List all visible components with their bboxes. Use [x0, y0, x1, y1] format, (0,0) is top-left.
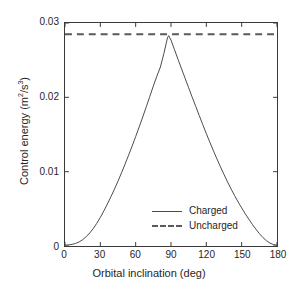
y-tick-label: 0.02: [40, 92, 59, 102]
x-tick-label: 90: [165, 250, 176, 260]
legend-solid-line-icon: [150, 206, 184, 216]
y-axis-label-prefix: Control energy (m: [18, 97, 30, 185]
y-axis-label-sup-time: 3: [17, 81, 24, 85]
x-axis-label: Orbital inclination (deg): [0, 267, 298, 279]
x-tick-label: 30: [94, 250, 105, 260]
x-tick-label: 150: [234, 250, 251, 260]
legend-dashed-line-icon: [150, 221, 184, 231]
x-tick-label: 0: [61, 250, 67, 260]
chart-legend: Charged Uncharged: [150, 203, 262, 233]
y-tick-label: 0.03: [40, 17, 59, 27]
y-axis-label-suffix: ): [18, 77, 30, 81]
chart-figure: 00.010.020.03 0306090120150180 Orbital i…: [0, 0, 298, 296]
legend-item-uncharged: Uncharged: [150, 218, 262, 233]
y-axis-label: Control energy (m2/s3): [18, 77, 30, 185]
x-axis-tick-labels: 0306090120150180: [0, 250, 298, 264]
x-tick-label: 120: [198, 250, 215, 260]
x-tick-label: 180: [270, 250, 287, 260]
legend-label-uncharged: Uncharged: [184, 220, 238, 231]
y-axis-label-sup-length: 2: [17, 93, 24, 97]
x-tick-label: 60: [130, 250, 141, 260]
y-axis-label-wrapper: Control energy (m2/s3): [16, 21, 32, 241]
legend-item-charged: Charged: [150, 203, 262, 218]
legend-label-charged: Charged: [184, 205, 227, 216]
y-tick-label: 0.01: [40, 167, 59, 177]
y-axis-label-mid: /s: [18, 85, 30, 94]
